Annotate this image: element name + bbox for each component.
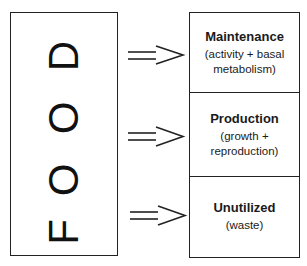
arrow-to-unutilized-icon xyxy=(130,206,185,225)
category-unutilized: Unutilized (waste) xyxy=(190,176,299,256)
arrow-to-maintenance-icon xyxy=(128,46,183,64)
category-title: Maintenance xyxy=(205,29,284,44)
category-maintenance: Maintenance (activity + basal metabolism… xyxy=(190,13,299,92)
category-production: Production (growth + reproduction) xyxy=(190,92,299,176)
category-title: Production xyxy=(210,111,279,126)
category-subtitle-line2: reproduction) xyxy=(211,144,279,158)
category-subtitle-line1: (waste) xyxy=(226,218,264,232)
category-subtitle-line1: (growth + xyxy=(220,129,268,143)
categories-box: Maintenance (activity + basal metabolism… xyxy=(189,12,300,258)
arrow-to-production-icon xyxy=(128,127,183,146)
category-subtitle-line1: (activity + basal xyxy=(205,47,285,61)
category-subtitle-line2: metabolism) xyxy=(213,62,276,76)
category-title: Unutilized xyxy=(213,200,275,215)
